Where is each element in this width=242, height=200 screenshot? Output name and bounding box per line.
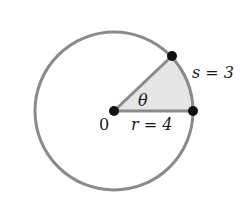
radius-label: r = 4 <box>131 115 172 134</box>
sector-diagram: θ 0 r = 4 s = 3 <box>0 0 242 200</box>
arc-start-point <box>188 106 198 116</box>
arc-length-label: s = 3 <box>192 63 234 82</box>
center-label: 0 <box>99 115 109 134</box>
diagram-canvas: θ 0 r = 4 s = 3 <box>0 0 242 200</box>
angle-label: θ <box>138 91 148 110</box>
arc-end-point <box>167 51 177 61</box>
center-point <box>109 106 119 116</box>
sector-fill <box>114 56 193 111</box>
